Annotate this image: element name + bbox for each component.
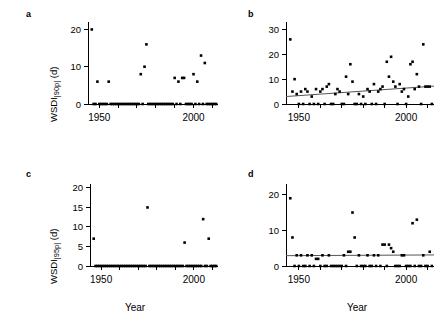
data-point bbox=[394, 85, 397, 88]
data-point bbox=[300, 90, 303, 93]
xtick-label: 1950 bbox=[88, 112, 111, 123]
data-point bbox=[202, 103, 205, 106]
panel-c-letter: c bbox=[26, 170, 31, 179]
data-point bbox=[200, 265, 203, 268]
data-point bbox=[319, 90, 322, 93]
data-point bbox=[196, 80, 199, 83]
panel-a-ylabel: WSDI|90p| (d) bbox=[48, 67, 59, 122]
data-point bbox=[325, 85, 328, 88]
data-point bbox=[328, 254, 331, 257]
data-point bbox=[381, 85, 384, 88]
data-point bbox=[426, 265, 429, 268]
data-point bbox=[390, 247, 393, 250]
panel-b: b 010203019502000 bbox=[224, 0, 447, 164]
data-point bbox=[375, 265, 378, 268]
data-point bbox=[358, 254, 361, 257]
data-point bbox=[328, 83, 331, 86]
data-point bbox=[141, 103, 144, 106]
data-point bbox=[321, 88, 324, 91]
data-point bbox=[173, 77, 176, 80]
data-point bbox=[295, 93, 298, 96]
data-point bbox=[431, 103, 434, 106]
xtick-label: 2000 bbox=[395, 274, 418, 285]
data-point bbox=[392, 250, 395, 253]
ytick-label: 10 bbox=[70, 61, 81, 72]
panel-c-ylabel-unit: (d) bbox=[48, 229, 59, 243]
data-point bbox=[289, 38, 292, 41]
data-point bbox=[386, 265, 389, 268]
data-point bbox=[407, 95, 410, 98]
data-point bbox=[304, 265, 307, 268]
panel-a-letter: a bbox=[26, 10, 31, 19]
data-point bbox=[310, 95, 313, 98]
data-point bbox=[198, 103, 201, 106]
data-point bbox=[431, 265, 434, 268]
data-point bbox=[370, 265, 373, 268]
data-point bbox=[106, 103, 109, 106]
data-point bbox=[298, 103, 301, 106]
panel-b-letter: b bbox=[248, 10, 254, 19]
data-point bbox=[409, 63, 412, 66]
data-point bbox=[317, 258, 320, 261]
data-point bbox=[90, 28, 93, 31]
panel-d: d 0102019502000 Year bbox=[224, 164, 447, 328]
data-point bbox=[409, 265, 412, 268]
data-point bbox=[190, 103, 193, 106]
data-point bbox=[411, 60, 414, 63]
data-point bbox=[334, 93, 337, 96]
ytick-label: 20 bbox=[268, 49, 279, 60]
ytick-label: 20 bbox=[72, 182, 83, 193]
data-point bbox=[306, 90, 309, 93]
data-point bbox=[202, 218, 205, 221]
data-point bbox=[323, 103, 326, 106]
data-point bbox=[368, 90, 371, 93]
data-point bbox=[298, 265, 301, 268]
data-point bbox=[175, 103, 178, 106]
data-point bbox=[360, 103, 363, 106]
data-point bbox=[358, 93, 361, 96]
panel-a: a WSDI|90p| (d) 0102019502000 bbox=[0, 0, 224, 164]
data-point bbox=[388, 243, 391, 246]
data-point bbox=[351, 211, 354, 214]
data-point bbox=[315, 88, 318, 91]
data-point bbox=[144, 265, 147, 268]
data-point bbox=[343, 254, 346, 257]
data-point bbox=[364, 103, 367, 106]
data-point bbox=[177, 80, 180, 83]
data-point bbox=[179, 103, 182, 106]
ytick-label: 10 bbox=[268, 225, 279, 236]
data-point bbox=[428, 250, 431, 253]
data-point bbox=[401, 90, 404, 93]
xtick-label: 2000 bbox=[183, 274, 206, 285]
data-point bbox=[398, 265, 401, 268]
data-point bbox=[349, 250, 352, 253]
panel-a-plot: 0102019502000 bbox=[0, 0, 224, 164]
data-point bbox=[347, 93, 350, 96]
data-point bbox=[291, 90, 294, 93]
data-point bbox=[370, 103, 373, 106]
data-point bbox=[403, 88, 406, 91]
data-point bbox=[171, 103, 174, 106]
data-point bbox=[96, 80, 99, 83]
data-point bbox=[422, 254, 425, 257]
data-point bbox=[386, 60, 389, 63]
data-point bbox=[317, 103, 320, 106]
data-point bbox=[215, 265, 218, 268]
data-point bbox=[92, 237, 95, 240]
ytick-label: 10 bbox=[72, 221, 83, 232]
data-point bbox=[291, 236, 294, 239]
data-point bbox=[377, 254, 380, 257]
data-point bbox=[300, 254, 303, 257]
data-point bbox=[392, 80, 395, 83]
xtick-label: 1950 bbox=[288, 274, 311, 285]
ytick-label: 15 bbox=[72, 202, 83, 213]
panel-d-letter: d bbox=[248, 170, 254, 179]
data-point bbox=[204, 62, 207, 65]
data-point bbox=[353, 236, 356, 239]
data-point bbox=[366, 254, 369, 257]
data-point bbox=[146, 206, 149, 209]
panel-c: c WSDI|95p| (d) 0510152019502000 Year bbox=[0, 164, 224, 328]
data-point bbox=[428, 85, 431, 88]
data-point bbox=[94, 103, 97, 106]
data-point bbox=[351, 80, 354, 83]
